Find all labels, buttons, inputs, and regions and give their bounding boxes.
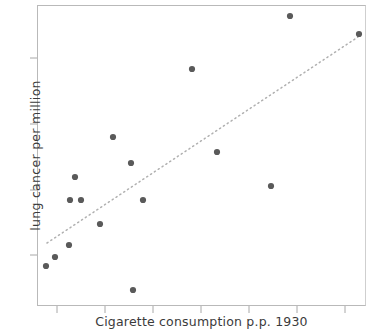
x-axis-label: Cigarette consumption p.p. 1930 <box>37 314 366 329</box>
data-point <box>128 160 134 166</box>
data-point <box>268 183 274 189</box>
trendline <box>47 37 358 243</box>
x-axis-ticks <box>57 306 345 313</box>
data-point <box>110 134 116 140</box>
data-point <box>130 287 136 293</box>
data-point <box>78 197 84 203</box>
data-point <box>214 149 220 155</box>
data-point <box>66 242 72 248</box>
chart-canvas <box>0 0 369 336</box>
scatter-chart-figure: lung cancer per million Cigarette consum… <box>0 0 369 336</box>
trendline-path <box>47 37 358 243</box>
data-point <box>67 197 73 203</box>
data-point <box>140 197 146 203</box>
data-point <box>72 174 78 180</box>
data-point <box>52 254 58 260</box>
data-points <box>43 13 362 293</box>
data-point <box>356 31 362 37</box>
y-axis-label: lung cancer per million <box>22 5 48 306</box>
data-point <box>97 221 103 227</box>
data-point <box>189 66 195 72</box>
data-point <box>287 13 293 19</box>
